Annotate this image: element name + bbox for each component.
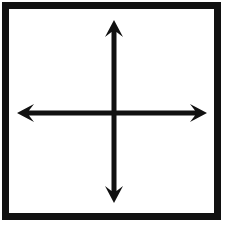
figure-canvas (0, 0, 227, 227)
figure-root: Coordinate axes cross diagram (0, 0, 227, 227)
